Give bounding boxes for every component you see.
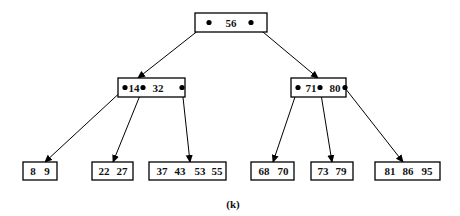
leaf-node-leaf4: 7379 — [311, 162, 353, 180]
node-key: 73 — [318, 165, 330, 177]
edge-arrow — [273, 88, 298, 162]
node-key: 53 — [195, 165, 207, 177]
b-tree-diagram: 56143271808922273743535568707379818695 (… — [0, 0, 460, 216]
edge-arrow — [320, 88, 332, 162]
leaf-node-leaf3: 6870 — [251, 162, 294, 180]
node-key: 55 — [212, 165, 224, 177]
node-key: 14 — [129, 82, 141, 94]
edge-arrow — [45, 88, 125, 162]
child-pointer-dot-icon — [317, 85, 322, 90]
leaf-node-leaf5: 818695 — [375, 162, 440, 180]
child-pointer-dot-icon — [122, 85, 127, 90]
node-key: 22 — [99, 165, 111, 177]
internal-node-right: 7180 — [291, 78, 348, 97]
node-key: 68 — [259, 165, 271, 177]
node-key: 79 — [336, 165, 348, 177]
root-node-root: 56 — [195, 13, 267, 32]
child-pointer-dot-icon — [295, 85, 300, 90]
node-key: 80 — [330, 82, 342, 94]
node-key: 95 — [422, 165, 434, 177]
edge-arrow — [113, 88, 143, 162]
figure-caption: (k) — [226, 198, 240, 211]
node-key: 8 — [30, 165, 36, 177]
node-key: 37 — [157, 165, 169, 177]
child-pointer-dot-icon — [248, 20, 253, 25]
node-box — [23, 162, 57, 180]
child-pointer-dot-icon — [140, 85, 145, 90]
edge-arrow — [345, 88, 403, 162]
node-key: 70 — [278, 165, 290, 177]
internal-node-left: 1432 — [118, 78, 185, 97]
node-key: 86 — [403, 165, 415, 177]
child-pointer-dot-icon — [179, 85, 184, 90]
node-key: 32 — [153, 82, 165, 94]
nodes-layer: 56143271808922273743535568707379818695 — [23, 13, 440, 180]
edge-arrow — [182, 88, 190, 162]
node-key: 43 — [175, 165, 187, 177]
node-key: 56 — [226, 17, 238, 29]
node-key: 81 — [385, 165, 396, 177]
node-key: 71 — [306, 82, 317, 94]
node-key: 9 — [44, 165, 50, 177]
leaf-node-leaf1: 2227 — [92, 162, 133, 180]
child-pointer-dot-icon — [342, 85, 347, 90]
node-key: 27 — [117, 165, 129, 177]
edges-layer — [45, 22, 403, 162]
child-pointer-dot-icon — [206, 20, 211, 25]
leaf-node-leaf2: 37435355 — [149, 162, 226, 180]
leaf-node-leaf0: 89 — [23, 162, 57, 180]
